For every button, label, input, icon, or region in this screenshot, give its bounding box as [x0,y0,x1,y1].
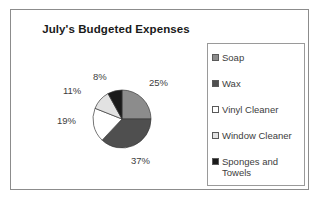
legend-swatch-sponges-and-towels-icon [212,158,219,165]
legend-swatch-soap-icon [212,54,219,61]
pie-value-label: 25% [149,78,168,88]
chart-frame: July's Budgeted Expenses 25%37%19%11%8% … [10,9,309,190]
legend-item[interactable]: Soap [212,52,304,63]
legend-item[interactable]: Vinyl Cleaner [212,104,304,115]
legend-item-label: Soap [222,52,244,63]
pie-value-label: 8% [93,72,107,82]
pie-slices [93,90,151,148]
pie-slice[interactable] [122,90,151,119]
legend-item-label: Window Cleaner [222,130,292,141]
legend-swatch-window-cleaner-icon [212,132,219,139]
pie-chart: 25%37%19%11%8% [11,36,211,186]
legend-item-label: Wax [222,78,241,89]
chart-title: July's Budgeted Expenses [11,23,221,35]
pie-value-label: 37% [131,156,150,166]
legend-swatch-wax-icon [212,80,219,87]
legend-item-label: Sponges and Towels [222,156,278,178]
legend-item-label: Vinyl Cleaner [222,104,278,115]
legend-swatch-vinyl-cleaner-icon [212,106,219,113]
pie-value-label: 11% [63,86,81,96]
pie-svg [11,36,211,186]
chart-legend: SoapWaxVinyl CleanerWindow CleanerSponge… [207,43,305,186]
legend-item[interactable]: Wax [212,78,304,89]
pie-value-label: 19% [57,116,76,126]
legend-item[interactable]: Sponges and Towels [212,156,304,178]
legend-item[interactable]: Window Cleaner [212,130,304,141]
